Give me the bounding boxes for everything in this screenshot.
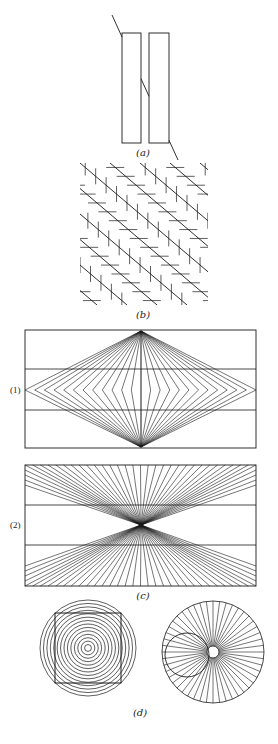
line xyxy=(141,390,199,447)
line xyxy=(141,525,233,586)
line xyxy=(162,645,207,651)
line xyxy=(170,163,278,305)
panel-c2-hering xyxy=(25,465,256,586)
line xyxy=(64,331,141,390)
line xyxy=(141,331,246,390)
line xyxy=(79,525,141,586)
panel-a-poggendorff xyxy=(112,15,178,160)
line xyxy=(230,163,278,305)
line xyxy=(141,465,233,525)
line xyxy=(20,163,187,305)
line xyxy=(33,465,141,525)
ring xyxy=(50,610,125,685)
ring xyxy=(47,607,129,689)
line xyxy=(40,465,141,525)
panel-a-label: (a) xyxy=(136,147,150,158)
line xyxy=(141,525,202,586)
zollner-lines xyxy=(0,159,278,308)
line xyxy=(141,390,179,447)
line xyxy=(102,390,141,447)
line xyxy=(25,525,141,586)
line xyxy=(217,656,249,688)
line xyxy=(200,163,278,305)
line xyxy=(141,465,202,525)
line xyxy=(141,525,256,576)
line xyxy=(169,140,178,160)
panel-d-concentric-square xyxy=(40,600,136,696)
rect xyxy=(149,33,169,143)
ring xyxy=(61,621,116,676)
panel-d-label: (d) xyxy=(133,707,147,718)
line xyxy=(141,390,227,447)
rect xyxy=(122,33,141,143)
line xyxy=(141,390,218,447)
line xyxy=(141,79,149,97)
line xyxy=(64,390,141,447)
line xyxy=(93,331,141,390)
line xyxy=(25,390,141,447)
panel-b-label: (b) xyxy=(136,309,150,320)
line xyxy=(141,465,248,525)
line xyxy=(214,601,220,646)
line xyxy=(141,390,256,447)
line xyxy=(54,390,141,447)
line xyxy=(83,390,141,447)
line xyxy=(141,390,189,447)
line xyxy=(141,525,194,586)
line xyxy=(79,465,141,525)
line xyxy=(35,390,141,447)
panel-c2-label: (2) xyxy=(10,520,21,530)
line xyxy=(50,163,217,305)
line xyxy=(141,331,151,390)
line xyxy=(141,331,179,390)
line xyxy=(141,331,189,390)
line xyxy=(141,465,256,525)
line xyxy=(25,525,141,581)
line xyxy=(141,331,199,390)
line xyxy=(141,525,248,586)
line xyxy=(25,475,141,525)
line xyxy=(25,465,141,525)
line xyxy=(219,653,264,659)
line xyxy=(141,331,218,390)
line xyxy=(0,163,67,305)
line xyxy=(56,525,141,586)
line xyxy=(141,331,256,390)
line xyxy=(141,331,227,390)
line xyxy=(112,15,122,37)
line xyxy=(35,331,141,390)
panel-c1-wundt xyxy=(25,330,256,448)
frame xyxy=(25,330,256,448)
line xyxy=(93,390,141,447)
line xyxy=(141,465,210,525)
line xyxy=(83,331,141,390)
line xyxy=(141,390,151,447)
line xyxy=(0,163,127,305)
ring xyxy=(67,627,108,668)
line xyxy=(102,331,141,390)
line xyxy=(71,525,141,586)
illusion-figure: (a) (b) (1) (2) (c) (d) xyxy=(0,0,278,744)
line xyxy=(25,331,141,390)
line xyxy=(33,525,141,586)
line xyxy=(177,656,209,688)
line xyxy=(80,163,247,305)
line xyxy=(219,645,264,651)
line xyxy=(141,525,210,586)
line xyxy=(141,390,246,447)
line xyxy=(141,465,142,525)
line xyxy=(110,163,277,305)
line xyxy=(214,658,220,703)
line xyxy=(131,390,141,447)
panel-b-zollner xyxy=(0,159,278,308)
line xyxy=(141,475,256,525)
line xyxy=(162,653,207,659)
line xyxy=(206,601,212,646)
line xyxy=(25,470,141,525)
ring xyxy=(81,641,95,655)
square xyxy=(55,613,121,683)
ring xyxy=(74,634,101,661)
line xyxy=(260,163,278,305)
panel-d-radial-circle xyxy=(162,601,264,703)
ring xyxy=(40,600,136,696)
